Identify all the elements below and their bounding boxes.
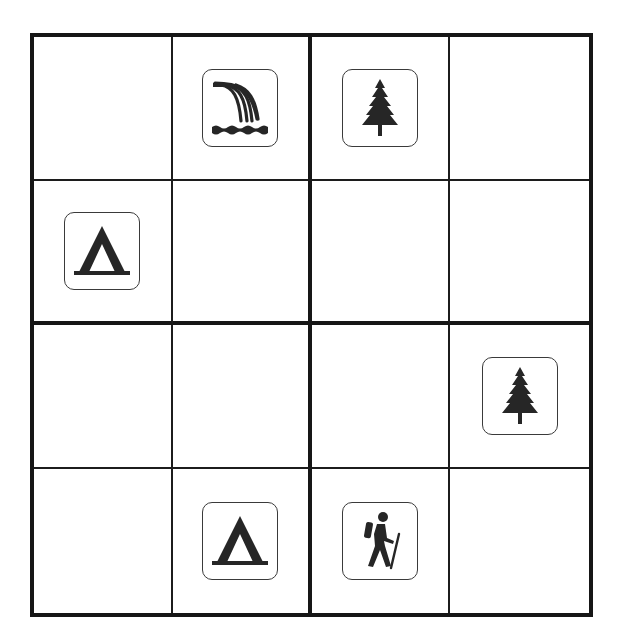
tree-tile [482, 357, 558, 435]
grid-cell-r2-c1 [34, 181, 173, 325]
grid-cell-r3-c4 [450, 325, 589, 469]
grid-cell-r1-c3 [312, 37, 451, 181]
grid-cell-r1-c4[interactable] [450, 37, 589, 181]
tent-icon [207, 508, 273, 574]
tent-icon [69, 218, 135, 284]
grid-cell-r3-c2[interactable] [173, 325, 312, 469]
grid-cell-r3-c3[interactable] [312, 325, 451, 469]
grid-cell-r1-c2 [173, 37, 312, 181]
puzzle-board [30, 33, 593, 617]
grid-cell-r4-c3 [312, 469, 451, 613]
grid-cell-r2-c4[interactable] [450, 181, 589, 325]
tree-tile [342, 69, 418, 147]
grid-cell-r3-c1[interactable] [34, 325, 173, 469]
grid-cell-r1-c1[interactable] [34, 37, 173, 181]
grid-cell-r2-c3[interactable] [312, 181, 451, 325]
pine-tree-icon [347, 75, 413, 141]
tent-tile [202, 502, 278, 580]
hiker-tile [342, 502, 418, 580]
hiker-icon [347, 508, 413, 574]
grid-cell-r4-c2 [173, 469, 312, 613]
tent-tile [64, 212, 140, 290]
waterfall-icon [207, 75, 273, 141]
grid-cell-r4-c4[interactable] [450, 469, 589, 613]
pine-tree-icon [487, 363, 553, 429]
grid-cell-r4-c1[interactable] [34, 469, 173, 613]
waterfall-tile [202, 69, 278, 147]
grid-cell-r2-c2[interactable] [173, 181, 312, 325]
